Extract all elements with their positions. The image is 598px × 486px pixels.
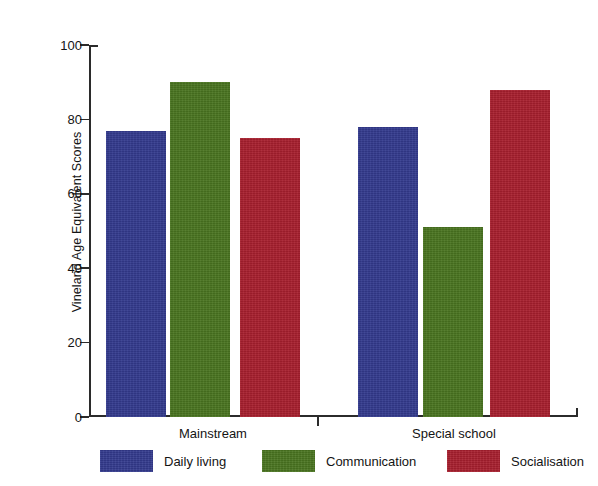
y-axis-top-cap	[89, 45, 98, 47]
bar-special-school-daily-living	[358, 127, 418, 417]
legend-item-daily-living: Daily living	[100, 449, 226, 473]
y-tick-label-40: 40	[68, 261, 82, 276]
legend-label-socialisation: Socialisation	[511, 454, 584, 469]
x-group-label-special-school: Special school	[412, 426, 496, 441]
bar-mainstream-communication	[170, 82, 230, 417]
y-tick-label-80: 80	[68, 112, 82, 127]
legend-swatch-socialisation-icon	[447, 450, 500, 472]
plot-area: 0 20 40 60 80 100 Mainstream	[89, 45, 578, 417]
x-axis-right-cap	[576, 408, 578, 417]
y-tick-0: 0	[89, 417, 90, 418]
y-tick-80: 80	[89, 119, 90, 120]
legend-item-communication: Communication	[262, 449, 416, 473]
bar-special-school-socialisation	[490, 90, 550, 417]
legend-item-socialisation: Socialisation	[447, 449, 584, 473]
y-tick-100: 100	[89, 45, 90, 46]
bar-chart-figure: Vineland Age Equivalent Scores 0 20 40 6…	[0, 0, 598, 486]
y-tick-60: 60	[89, 194, 90, 195]
legend-swatch-daily-living-icon	[100, 450, 153, 472]
y-axis-line	[89, 45, 91, 417]
bar-mainstream-socialisation	[240, 138, 300, 417]
legend-swatch-communication-icon	[262, 450, 315, 472]
bar-special-school-communication	[423, 227, 483, 417]
chart-legend: Daily living Communication Socialisation	[89, 449, 578, 475]
y-tick-label-100: 100	[60, 38, 82, 53]
y-tick-label-60: 60	[68, 186, 82, 201]
y-tick-label-0: 0	[75, 410, 82, 425]
legend-label-communication: Communication	[326, 454, 416, 469]
legend-label-daily-living: Daily living	[164, 454, 226, 469]
y-tick-20: 20	[89, 343, 90, 344]
y-tick-label-20: 20	[68, 335, 82, 350]
bar-mainstream-daily-living	[106, 131, 166, 417]
x-tick-group-separator	[317, 417, 319, 426]
x-group-label-mainstream: Mainstream	[179, 426, 247, 441]
y-tick-40: 40	[89, 268, 90, 269]
